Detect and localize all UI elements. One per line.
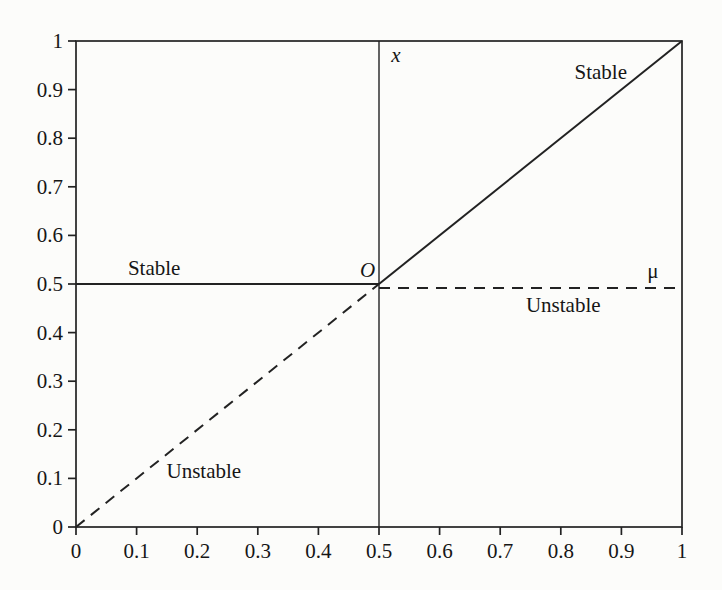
y-tick-label: 0.5 [37,272,63,296]
stable-branch-upper-diagonal [379,41,682,284]
mu-axis-label: μ [647,259,658,283]
x-tick-label: 0.6 [426,539,452,563]
y-tick-label: 0.1 [37,466,63,490]
x-tick-label: 0.7 [487,539,513,563]
x-tick-label: 0.8 [548,539,574,563]
x-tick-label: 0.3 [245,539,271,563]
y-tick-label: 0.7 [37,175,63,199]
x-tick-label: 0.1 [123,539,149,563]
bifurcation-diagram: 00.10.20.30.40.50.60.70.80.9100.10.20.30… [0,0,722,590]
stable-label-left: Stable [128,256,181,280]
y-tick-label: 0.9 [37,78,63,102]
y-tick-label: 0.2 [37,418,63,442]
x-axis-label: x [390,43,401,67]
y-tick-label: 1 [53,29,64,53]
x-tick-label: 0.5 [366,539,392,563]
x-tick-label: 0.2 [184,539,210,563]
y-tick-label: 0.3 [37,369,63,393]
scanned-figure-page: 00.10.20.30.40.50.60.70.80.9100.10.20.30… [0,0,722,590]
y-tick-label: 0 [53,515,64,539]
stable-label-upper-right: Stable [575,60,628,84]
x-tick-label: 0.9 [608,539,634,563]
x-tick-label: 0.4 [305,539,332,563]
unstable-branch-lower-diagonal [76,284,379,527]
unstable-label-lower: Unstable [167,459,242,483]
y-tick-label: 0.4 [37,321,64,345]
y-tick-label: 0.6 [37,223,63,247]
y-tick-label: 0.8 [37,126,63,150]
chart-canvas: 00.10.20.30.40.50.60.70.80.9100.10.20.30… [0,0,722,590]
x-tick-label: 0 [71,539,82,563]
origin-label: O [360,258,375,282]
x-tick-label: 1 [677,539,688,563]
unstable-label-right: Unstable [526,293,601,317]
